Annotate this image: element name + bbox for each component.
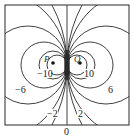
point-p-marker <box>51 61 55 65</box>
label-pos-10: 10 <box>84 68 94 79</box>
point-q-label: Q <box>74 54 81 64</box>
label-neg-6: −6 <box>15 84 26 95</box>
label-neg-10: −10 <box>37 68 53 79</box>
label-pos-6: 6 <box>108 84 113 95</box>
point-p-label: P <box>43 54 50 64</box>
label-pos-2: 2 <box>78 108 83 119</box>
contour-diagram: P Q −10 10 −6 6 −2 2 0 <box>0 0 135 138</box>
label-neg-2: −2 <box>47 108 58 119</box>
label-zero: 0 <box>64 126 69 137</box>
